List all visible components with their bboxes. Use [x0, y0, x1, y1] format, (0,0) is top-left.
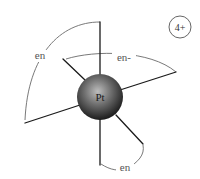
- ligand-label-bottom: en: [120, 161, 131, 173]
- metal-label: Pt: [95, 91, 104, 103]
- bond-lower-right: [116, 115, 143, 144]
- bond-upper-left: [63, 59, 85, 80]
- bond-right: [120, 72, 176, 90]
- bond-lower-left: [25, 105, 80, 123]
- ligand-label-upper: en-: [117, 51, 131, 63]
- complex-diagram: Pt en en- en 4+: [0, 0, 200, 179]
- ligand-label-left: en: [35, 49, 46, 61]
- charge-label: 4+: [175, 22, 186, 33]
